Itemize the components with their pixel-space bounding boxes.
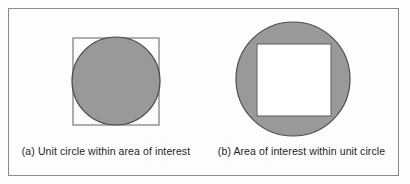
panel-a-caption: (a) Unit circle within area of interest <box>8 144 204 158</box>
panel-b-diagram <box>204 8 399 138</box>
panel-b-svg <box>204 8 399 138</box>
panel-b-caption: (b) Area of interest within unit circle <box>204 144 399 158</box>
area-of-interest-square-b <box>257 44 331 116</box>
panel-a-diagram <box>8 8 204 138</box>
figure-panels: (a) Unit circle within area of interest … <box>8 8 399 176</box>
unit-circle-a <box>72 37 160 125</box>
panel-a-svg <box>8 8 204 138</box>
panel-unit-circle-within-area: (a) Unit circle within area of interest <box>8 8 204 176</box>
panel-area-within-unit-circle: (b) Area of interest within unit circle <box>204 8 399 176</box>
figure-root: (a) Unit circle within area of interest … <box>0 0 410 184</box>
